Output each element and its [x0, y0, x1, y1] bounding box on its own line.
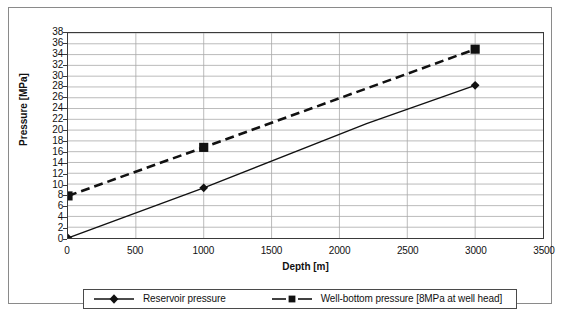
y-axis-tick-mark: [63, 206, 67, 207]
y-axis-tick-mark: [63, 239, 67, 240]
y-axis-tick-mark: [63, 163, 67, 164]
y-axis-tick-mark: [63, 174, 67, 175]
x-axis-title: Depth [m]: [67, 261, 544, 272]
y-axis-tick-label: 24: [39, 103, 63, 113]
x-axis-tick-label: 1500: [261, 246, 282, 256]
x-axis-tick-label: 3000: [465, 246, 486, 256]
y-axis-tick-label: 18: [39, 136, 63, 146]
y-axis-tick-label: 16: [39, 147, 63, 157]
y-axis-tick-label: 38: [39, 27, 63, 37]
y-axis-tick-label: 0: [39, 234, 63, 244]
y-axis-title: Pressure [MPa]: [18, 45, 29, 175]
x-axis-tick-label: 2500: [397, 246, 418, 256]
y-axis-tick-mark: [63, 65, 67, 66]
y-axis-tick-label: 32: [39, 60, 63, 70]
y-axis-tick-label: 8: [39, 190, 63, 200]
x-axis-tick-label: 0: [64, 246, 69, 256]
x-axis-tick-label: 500: [127, 246, 143, 256]
x-axis-tick-label: 1000: [193, 246, 214, 256]
y-axis-tick-label: 30: [39, 71, 63, 81]
y-axis-tick-label: 14: [39, 158, 63, 168]
y-axis-tick-label: 20: [39, 125, 63, 135]
figure-frame: Pressure [MPa] 3836343230282624222018161…: [8, 7, 552, 304]
y-axis-tick-mark: [63, 97, 67, 98]
y-axis-tick-mark: [63, 54, 67, 55]
figure-container: Pressure [MPa] 3836343230282624222018161…: [0, 0, 563, 316]
y-axis-tick-label: 34: [39, 49, 63, 59]
y-axis-tick-mark: [63, 108, 67, 109]
chart-legend: Reservoir pressure Well-bottom pressure …: [83, 289, 517, 309]
legend-label: Well-bottom pressure [8MPa at well head]: [321, 294, 502, 304]
y-axis-tick-label: 28: [39, 81, 63, 91]
y-axis-tick-label: 10: [39, 180, 63, 190]
x-axis-tick-labels: 0500100015002000250030003500: [67, 244, 544, 258]
x-axis-tick-label: 2000: [329, 246, 350, 256]
y-axis-tick-mark: [63, 43, 67, 44]
y-axis-tick-label: 12: [39, 169, 63, 179]
y-axis-tick-mark: [63, 217, 67, 218]
y-axis-tick-label: 26: [39, 92, 63, 102]
y-axis-tick-mark: [63, 119, 67, 120]
y-axis-tick-mark: [63, 152, 67, 153]
y-axis-tick-mark: [63, 86, 67, 87]
legend-entry-reservoir-pressure[interactable]: Reservoir pressure: [92, 290, 226, 308]
square-marker-icon: [270, 292, 314, 306]
y-axis-tick-mark: [63, 195, 67, 196]
y-axis-tick-mark: [63, 141, 67, 142]
y-axis-tick-label: 36: [39, 38, 63, 48]
y-axis-tick-label: 22: [39, 114, 63, 124]
plot-area: [67, 32, 544, 239]
x-axis-tick-label: 3500: [533, 246, 554, 256]
y-axis-tick-mark: [63, 228, 67, 229]
data-series-layer: [68, 33, 543, 238]
diamond-marker-icon: [92, 292, 136, 306]
y-axis-tick-mark: [63, 32, 67, 33]
y-axis-tick-mark: [63, 130, 67, 131]
y-axis-tick-mark: [63, 185, 67, 186]
y-axis-tick-mark: [63, 76, 67, 77]
legend-entry-well-bottom-pressure[interactable]: Well-bottom pressure [8MPa at well head]: [270, 290, 502, 308]
y-axis-tick-label: 2: [39, 223, 63, 233]
y-axis-tick-label: 6: [39, 201, 63, 211]
y-axis-tick-labels: 38363432302826242220181614121086420: [37, 32, 63, 239]
legend-label: Reservoir pressure: [143, 294, 226, 304]
y-axis-tick-label: 4: [39, 212, 63, 222]
